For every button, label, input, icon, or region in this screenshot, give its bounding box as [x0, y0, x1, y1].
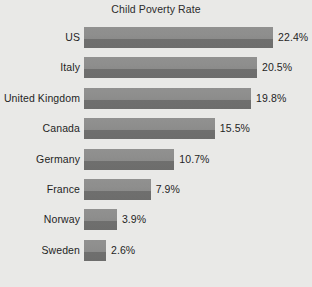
bar-row: Norway3.9%	[0, 209, 312, 230]
category-label: Germany	[0, 149, 80, 170]
bar	[84, 209, 117, 230]
bar	[84, 179, 151, 200]
category-label: United Kingdom	[0, 88, 80, 109]
bar-row: Canada15.5%	[0, 118, 312, 139]
bar	[84, 240, 106, 261]
category-label: Canada	[0, 118, 80, 139]
value-label: 20.5%	[262, 57, 292, 78]
bar-fill	[84, 240, 106, 261]
plot-area: US22.4%Italy20.5%United Kingdom19.8%Cana…	[0, 27, 312, 279]
bar-fill	[84, 179, 151, 200]
bar-row: Italy20.5%	[0, 57, 312, 78]
bar	[84, 27, 273, 48]
bar	[84, 88, 251, 109]
category-label: Norway	[0, 209, 80, 230]
bar-fill	[84, 118, 215, 139]
bar-fill	[84, 27, 273, 48]
child-poverty-rate-chart: Child Poverty Rate US22.4%Italy20.5%Unit…	[0, 0, 312, 287]
category-label: US	[0, 27, 80, 48]
value-label: 3.9%	[122, 209, 146, 230]
category-label: France	[0, 179, 80, 200]
value-label: 2.6%	[111, 240, 135, 261]
value-label: 19.8%	[256, 88, 286, 109]
bar-fill	[84, 88, 251, 109]
bar	[84, 57, 257, 78]
bar-row: Germany10.7%	[0, 149, 312, 170]
value-label: 22.4%	[278, 27, 308, 48]
value-label: 15.5%	[220, 118, 250, 139]
bar	[84, 118, 215, 139]
bar-row: Sweden2.6%	[0, 240, 312, 261]
bar-row: France7.9%	[0, 179, 312, 200]
bar-row: US22.4%	[0, 27, 312, 48]
bar-row: United Kingdom19.8%	[0, 88, 312, 109]
bar-fill	[84, 209, 117, 230]
bar	[84, 149, 174, 170]
value-label: 10.7%	[179, 149, 209, 170]
bar-fill	[84, 57, 257, 78]
category-label: Sweden	[0, 240, 80, 261]
chart-title: Child Poverty Rate	[0, 3, 312, 15]
value-label: 7.9%	[156, 179, 180, 200]
category-label: Italy	[0, 57, 80, 78]
bar-fill	[84, 149, 174, 170]
